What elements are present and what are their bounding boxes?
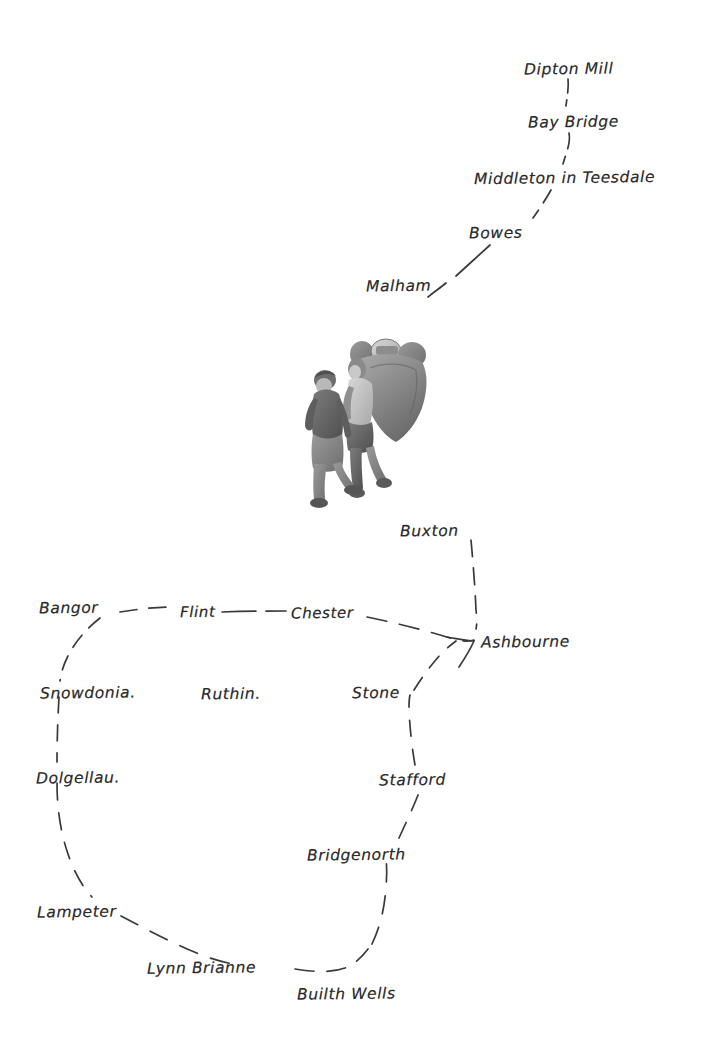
- place-label-lampeter[interactable]: Lampeter: [37, 905, 117, 921]
- place-label-chester[interactable]: Chester: [291, 606, 354, 622]
- segment-bridgenorth-stafford: [399, 787, 421, 838]
- place-label-ashbourne[interactable]: Ashbourne: [481, 634, 570, 651]
- place-label-lynn-brianne[interactable]: Lynn Brianne: [147, 960, 256, 977]
- segment-lampeter-lynn-brianne: [121, 916, 238, 965]
- place-label-builth-wells[interactable]: Builth Wells: [297, 986, 396, 1003]
- place-label-middleton-in-teesdale[interactable]: Middleton in Teesdale: [474, 170, 655, 188]
- place-label-stafford[interactable]: Stafford: [379, 773, 446, 789]
- segment-builth-wells-bridgenorth: [372, 860, 387, 944]
- segment-lynn-brianne-builth-wells: [295, 949, 368, 972]
- segment-bay-bridge-middleton: [563, 133, 569, 164]
- segment-buxton-ashbourne: [471, 540, 477, 629]
- place-label-bangor[interactable]: Bangor: [39, 601, 98, 617]
- segment-middleton-bowes: [533, 190, 551, 218]
- place-label-bowes[interactable]: Bowes: [469, 226, 523, 242]
- segment-stone-ashbourne: [414, 641, 456, 690]
- place-label-dipton-mill[interactable]: Dipton Mill: [524, 61, 613, 78]
- segment-bowes-malham: [428, 245, 490, 297]
- segment-snowdonia-dolgellau: [57, 697, 59, 762]
- segment-stafford-stone: [409, 695, 415, 765]
- segment-bangor-flint: [120, 607, 172, 612]
- segment-dolgellau-lampeter: [57, 783, 92, 897]
- two-hikers-illustration: [300, 336, 448, 508]
- segment-ashbourne-corner: [447, 637, 474, 667]
- place-label-buxton[interactable]: Buxton: [400, 524, 459, 540]
- place-label-malham[interactable]: Malham: [366, 279, 431, 295]
- place-label-ruthin[interactable]: Ruthin.: [201, 687, 261, 703]
- place-label-bay-bridge[interactable]: Bay Bridge: [528, 114, 619, 131]
- segment-dipton-mill-bay-bridge: [566, 79, 568, 106]
- segment-bangor-snowdonia: [60, 618, 100, 681]
- place-label-bridgenorth[interactable]: Bridgenorth: [307, 847, 406, 864]
- place-label-snowdonia[interactable]: Snowdonia.: [40, 685, 136, 702]
- place-label-dolgellau[interactable]: Dolgellau.: [36, 770, 120, 787]
- route-path-layer: [0, 0, 717, 1054]
- segment-chester-ashbourne: [367, 617, 474, 641]
- route-map-canvas: Dipton Mill Bay Bridge Middleton in Tees…: [0, 0, 717, 1054]
- segment-flint-chester: [222, 611, 286, 612]
- place-label-flint[interactable]: Flint: [180, 605, 216, 620]
- place-label-stone[interactable]: Stone: [352, 686, 400, 702]
